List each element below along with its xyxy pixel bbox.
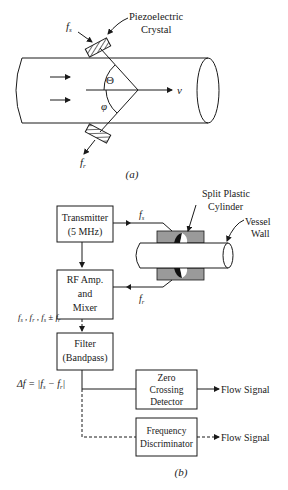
fs-arrow-icon — [126, 220, 131, 226]
filter-line2: (Bandpass) — [63, 352, 108, 364]
vessel-wall-callout-icon — [227, 220, 244, 241]
mixer-output-label: fs , fr , fs ± fr — [18, 312, 61, 323]
caption-a: (a) — [126, 168, 139, 181]
receive-crystal-icon — [85, 124, 110, 143]
vessel-label-line2: Wall — [251, 228, 270, 239]
caption-b: (b) — [175, 466, 188, 479]
part-a-vessel-diagram: v Θ φ fs fr Piezoelectric Crystal (a) — [16, 11, 219, 181]
fs-in-arrow-icon — [78, 32, 92, 42]
zcd-line3: Detector — [150, 397, 184, 407]
rf-line2: and — [78, 288, 92, 299]
fd-line1: Frequency — [146, 426, 186, 436]
flow-signal-1-label: Flow Signal — [221, 384, 270, 395]
doppler-flowmeter-diagram: v Θ φ fs fr Piezoelectric Crystal (a) Tr… — [0, 0, 288, 490]
fs-label-b: fs — [139, 209, 145, 221]
split-cylinder-callout-icon — [188, 205, 196, 231]
filter-line1: Filter — [74, 338, 96, 349]
delta-f-label: Δf = |fs − fr| — [16, 378, 65, 390]
transmit-crystal-icon — [85, 38, 110, 57]
vessel-end — [223, 243, 233, 268]
fr-arrow-icon — [126, 284, 131, 290]
fr-label-b: fr — [139, 293, 145, 305]
filter-to-zcd-line — [82, 370, 136, 389]
phi-label: φ — [101, 100, 107, 112]
split-label-line2: Cylinder — [208, 201, 244, 212]
transmitter-line1: Transmitter — [62, 212, 109, 223]
fs-line — [113, 223, 172, 231]
fs-label-a: fs — [66, 20, 72, 34]
transmitter-line2: (5 MHz) — [68, 226, 103, 238]
phi-arc — [106, 90, 117, 113]
frequency-discriminator-block — [136, 418, 197, 456]
fr-line — [113, 280, 172, 287]
vessel-label-line1: Vessel — [245, 216, 271, 227]
rf-line3: Mixer — [73, 302, 98, 313]
fd-line2: Discriminator — [140, 439, 194, 449]
zcd-line2: Crossing — [150, 385, 184, 395]
vessel-with-split-cylinder — [136, 231, 233, 280]
fr-label-a: fr — [80, 156, 86, 170]
velocity-label: v — [177, 84, 182, 96]
crystal-callout-arrow-icon — [108, 18, 128, 34]
part-b-block-diagram: Transmitter (5 MHz) RF Amp. and Mixer fs… — [16, 188, 271, 479]
crystal-label-line2: Crystal — [141, 24, 171, 35]
crystal-label-line1: Piezoelectric — [129, 11, 184, 22]
filter-to-fd-line — [82, 389, 136, 437]
fr-out-arrow-icon — [84, 140, 95, 154]
split-label-line1: Split Plastic — [202, 188, 251, 199]
flow-signal-2-label: Flow Signal — [221, 432, 270, 443]
rf-line1: RF Amp. — [67, 274, 104, 285]
zcd-line1: Zero — [158, 373, 176, 383]
theta-label: Θ — [106, 74, 114, 86]
